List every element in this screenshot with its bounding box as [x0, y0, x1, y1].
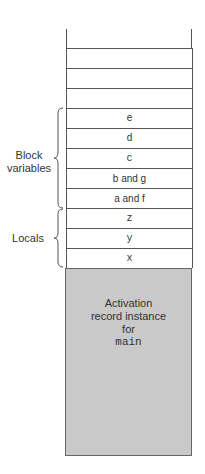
stack-cell-y: y [66, 228, 193, 248]
label-text: Locals [12, 232, 44, 244]
stack-cell-x: x [66, 248, 193, 268]
empty-stack-cell [66, 88, 193, 108]
block-variables-brace-icon [53, 107, 65, 209]
cell-label: x [126, 253, 132, 264]
block-variables-label: Block variables [2, 149, 56, 175]
activation-text-line: record instance [66, 310, 191, 323]
stack-cell-a-and-f: a and f [66, 188, 193, 208]
cell-label: a and f [114, 193, 145, 204]
empty-stack-cell [66, 68, 193, 88]
stack-right-edge [191, 29, 192, 48]
activation-text-line: for [66, 323, 191, 336]
stack-cell-c: c [66, 148, 193, 168]
label-line: variables [2, 162, 56, 175]
activation-text-line: Activation [66, 297, 191, 310]
cell-label: d [126, 133, 132, 144]
stack-left-edge [66, 29, 67, 48]
cell-label: b and g [113, 173, 146, 184]
cell-label: y [126, 233, 132, 244]
cell-label: e [126, 113, 132, 124]
stack-cell-b-and-g: b and g [66, 168, 193, 188]
cell-label: c [126, 153, 132, 164]
activation-record-main: Activation record instance for main [65, 268, 192, 456]
cell-label: z [126, 213, 132, 224]
locals-label: Locals [8, 232, 48, 245]
locals-brace-icon [53, 208, 65, 268]
stack-cell-e: e [66, 108, 193, 128]
activation-function-name: main [66, 336, 191, 349]
stack-cell-z: z [66, 208, 193, 228]
empty-stack-cell [66, 48, 193, 68]
label-line: Block [2, 149, 56, 162]
stack-cell-d: d [66, 128, 193, 148]
